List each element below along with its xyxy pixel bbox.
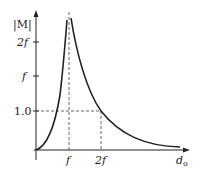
y-tick-label-2f: 2f [16, 36, 30, 49]
x-axis-label: do [176, 154, 188, 168]
curve-right [71, 18, 180, 147]
y-axis-label: |M| [13, 18, 32, 32]
y-tick-label-f: f [21, 70, 28, 83]
x-tick-label-f: f [65, 154, 72, 167]
x-axis-arrow-icon [183, 148, 190, 153]
magnification-plot: |M| 2f f 1.0 f 2f do [0, 0, 200, 179]
x-tick-label-2f: 2f [94, 154, 108, 167]
curve-left [36, 20, 67, 150]
y-tick-label-1: 1.0 [14, 105, 32, 118]
y-axis-arrow-icon [34, 10, 39, 17]
